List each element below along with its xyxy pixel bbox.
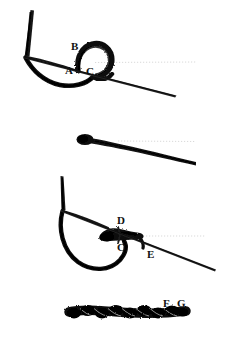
label-f: F <box>163 298 170 309</box>
figure-root: B A C D C E F G <box>0 0 243 345</box>
label-e: E <box>147 249 154 260</box>
label-b: B <box>71 41 78 52</box>
suture-illustration <box>0 0 243 345</box>
label-c-panel3: C <box>117 242 125 253</box>
label-d: D <box>117 215 125 226</box>
label-a: A <box>65 65 73 76</box>
canvas-background <box>0 0 243 345</box>
label-c-panel1: C <box>86 66 94 77</box>
label-g: G <box>177 298 186 309</box>
